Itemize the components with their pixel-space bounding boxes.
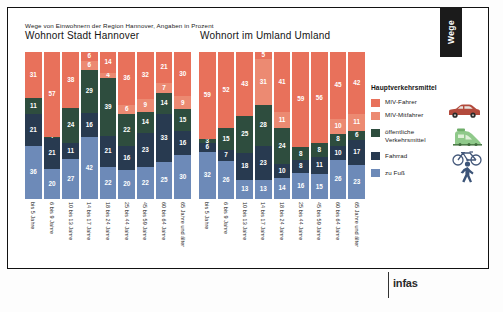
bar-segment: 29 xyxy=(81,70,98,113)
bar-segment: 45 xyxy=(330,52,347,119)
legend-swatch-miv-mitfahrer xyxy=(371,112,380,120)
bar-segment: 30 xyxy=(174,52,191,96)
bar-segment: 42 xyxy=(81,137,98,199)
legend-group-fahrrad: Fahrrad xyxy=(371,152,483,161)
bar-segment: 11 xyxy=(311,157,328,175)
bar-segment: 11 xyxy=(348,114,365,130)
x-tick: 25 bis 44 Jahre xyxy=(118,201,135,247)
legend-item-fahrrad[interactable]: Fahrrad xyxy=(371,152,483,161)
bar-segment: 14 xyxy=(100,52,117,73)
bar-segment-value: 42 xyxy=(86,165,93,171)
bar-segment-value: 8 xyxy=(336,136,340,142)
bar-segment-value: 18 xyxy=(241,163,248,169)
bar-segment-value: 8 xyxy=(299,151,303,157)
x-tick-label: 45 bis 59 Jahre xyxy=(142,202,148,240)
bar-segment-value: 24 xyxy=(278,143,285,149)
x-tick-label: bis 5 Jahre xyxy=(204,202,210,229)
bar-segment: 25 xyxy=(236,116,253,153)
bar-segment-value: 25 xyxy=(241,131,248,137)
bar-segment: 21 xyxy=(156,52,173,83)
bar-segment-value: 16 xyxy=(123,155,130,161)
bar-segment: 27 xyxy=(62,159,79,199)
bar-segment: 16 xyxy=(174,131,191,155)
x-tick-label: 25 bis 44 Jahre xyxy=(124,202,130,240)
bar-segment-value: 16 xyxy=(179,140,186,146)
stacked-bar: 66291642 xyxy=(81,52,98,199)
stacked-bar: 5215726 xyxy=(218,52,235,199)
bar-segment-value: 30 xyxy=(179,174,186,180)
bar-segment: 10 xyxy=(330,119,347,134)
stacked-bar: 531282313 xyxy=(255,52,272,199)
bar-segment-value: 13 xyxy=(241,186,248,192)
legend-item-zu-fuss[interactable]: zu Fuß xyxy=(371,169,483,178)
bar-segment: 31 xyxy=(255,59,272,105)
legend-group-opnv: öffentliche Verkehrsmittel xyxy=(371,128,483,144)
wege-section-tab[interactable]: Wege xyxy=(440,7,462,57)
bar-segment: 16 xyxy=(118,146,135,170)
bar-segment-value: 15 xyxy=(222,136,229,142)
bar-segment: 8 xyxy=(292,147,309,160)
bar-segment-value: 21 xyxy=(48,150,55,156)
bar-segment: 25 xyxy=(156,162,173,199)
bar-segment-value: 10 xyxy=(334,123,341,129)
stacked-bar: 329142322 xyxy=(137,52,154,199)
legend-swatch-miv-fahrer xyxy=(371,99,380,107)
x-tick-label: 18 bis 24 Jahre xyxy=(279,202,285,240)
x-tick: 14 bis 17 Jahre xyxy=(255,201,272,247)
bar-segment: 22 xyxy=(137,167,154,199)
bar-segment: 6 xyxy=(81,52,98,61)
bar-segment: 24 xyxy=(62,108,79,143)
x-tick-label: 25 bis 44 Jahre xyxy=(298,202,304,240)
bar-segment: 56 xyxy=(311,52,328,143)
bar-segment-value: 36 xyxy=(123,75,130,81)
bar-segment-value: 16 xyxy=(86,122,93,128)
x-tick-label: 65 Jahre und älter xyxy=(354,202,360,247)
bar-segment-value: 32 xyxy=(142,72,149,78)
bar-segment: 22 xyxy=(100,167,117,199)
bar-segment-value: 7 xyxy=(224,152,228,158)
bar-segment: 32 xyxy=(137,52,154,99)
bar-segment-value: 14 xyxy=(142,119,149,125)
bar-segment: 39 xyxy=(100,78,117,135)
x-tick: 65 Jahre und älter xyxy=(348,201,365,247)
bar-segment: 17 xyxy=(348,140,365,165)
bar-segment-value: 6 xyxy=(88,62,92,68)
x-tick-label: 18 bis 24 Jahre xyxy=(105,202,111,240)
bar-segment-value: 6 xyxy=(88,53,92,59)
bar-segment: 9 xyxy=(174,96,191,109)
bar-segment-value: 11 xyxy=(30,103,37,109)
legend-swatch-fahrrad xyxy=(371,152,380,160)
bar-segment-value: 11 xyxy=(316,162,323,168)
bar-segment: 18 xyxy=(236,153,253,180)
x-tick-label: 6 bis 9 Jahre xyxy=(223,202,229,234)
bar-segment: 20 xyxy=(44,169,61,199)
bar-segment: 26 xyxy=(218,161,235,199)
bar-segment: 23 xyxy=(255,146,272,180)
bar-segment: 23 xyxy=(348,165,365,199)
bar-segment-value: 24 xyxy=(67,122,74,128)
bar-segment: 6 xyxy=(199,143,216,152)
bar-segment: 15 xyxy=(218,128,235,150)
stacked-bar: 5681115 xyxy=(311,52,328,199)
bar-segment-value: 43 xyxy=(241,81,248,87)
legend-group-zufuss: zu Fuß xyxy=(371,169,483,178)
x-tick: 10 bis 13 Jahre xyxy=(62,201,79,247)
bar-segment: 36 xyxy=(25,146,42,199)
bar-segment-value: 15 xyxy=(179,117,186,123)
bar-segment-value: 31 xyxy=(260,79,267,85)
legend-item-oepnv[interactable]: öffentliche Verkehrsmittel xyxy=(371,128,483,144)
x-tick: 25 bis 44 Jahre xyxy=(292,201,309,247)
stacked-bar: 43251813 xyxy=(236,52,253,199)
stacked-bar: 38241127 xyxy=(62,52,79,199)
bar-segment-value: 14 xyxy=(104,59,111,65)
bar-segment: 6 xyxy=(348,131,365,140)
bar-segment-value: 17 xyxy=(353,149,360,155)
wege-tab-label: Wege xyxy=(446,20,456,44)
bar-segment-value: 38 xyxy=(67,77,74,83)
bar-segment: 26 xyxy=(330,160,347,199)
bar-segment-value: 45 xyxy=(334,82,341,88)
bar-segment-value: 21 xyxy=(30,127,37,133)
x-tick-label: 6 bis 9 Jahre xyxy=(49,202,55,234)
stacked-bar: 421161723 xyxy=(348,52,365,199)
bar-segment-value: 39 xyxy=(104,104,111,110)
